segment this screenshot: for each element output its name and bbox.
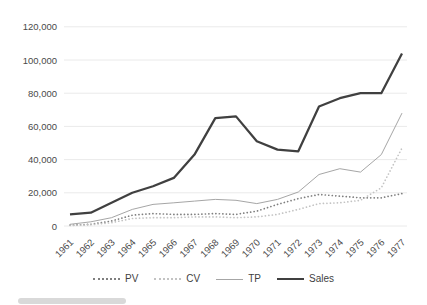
x-tick-label: 1975 [343, 237, 366, 260]
x-tick-label: 1972 [281, 237, 304, 260]
legend-item-cv: CV [154, 274, 200, 284]
tp-line-swatch [216, 279, 243, 280]
series-line-sales [70, 53, 402, 214]
pv-line-swatch [93, 278, 120, 280]
y-tick-label: 20,000 [28, 187, 57, 198]
x-tick-label: 1963 [94, 237, 117, 260]
x-tick-label: 1969 [219, 237, 242, 260]
legend-label-tp: TP [248, 274, 261, 284]
y-tick-label: 120,000 [23, 21, 57, 32]
cv-line-swatch [154, 278, 181, 280]
x-tick-label: 1965 [136, 237, 159, 260]
chart-legend: PV CV TP Sales [0, 274, 427, 284]
x-tick-label: 1967 [177, 237, 200, 260]
x-tick-label: 1964 [115, 237, 138, 260]
plot-area: 020,00040,00060,00080,000100,000120,0001… [0, 0, 427, 268]
x-tick-label: 1962 [73, 237, 96, 260]
y-tick-label: 100,000 [23, 55, 57, 66]
legend-item-tp: TP [216, 274, 261, 284]
legend-label-cv: CV [186, 274, 200, 284]
legend-item-sales: Sales [277, 274, 334, 284]
y-tick-label: 80,000 [28, 88, 57, 99]
x-tick-label: 1968 [198, 237, 221, 260]
y-tick-label: 60,000 [28, 121, 57, 132]
series-line-tp [70, 113, 402, 224]
y-tick-label: 40,000 [28, 154, 57, 165]
x-tick-label: 1974 [322, 237, 345, 260]
x-tick-label: 1971 [260, 237, 283, 260]
x-tick-label: 1966 [156, 237, 179, 260]
legend-label-pv: PV [125, 274, 138, 284]
y-tick-label: 0 [52, 221, 57, 232]
horizontal-scrollbar-thumb[interactable] [18, 298, 126, 304]
sales-line-swatch [277, 278, 304, 280]
x-tick-label: 1976 [364, 237, 387, 260]
line-chart: 020,00040,00060,00080,000100,000120,0001… [0, 0, 427, 305]
x-tick-label: 1977 [385, 237, 408, 260]
x-tick-label: 1961 [53, 237, 76, 260]
x-tick-label: 1973 [302, 237, 325, 260]
legend-item-pv: PV [93, 274, 138, 284]
x-tick-label: 1970 [239, 237, 262, 260]
legend-label-sales: Sales [309, 274, 334, 284]
